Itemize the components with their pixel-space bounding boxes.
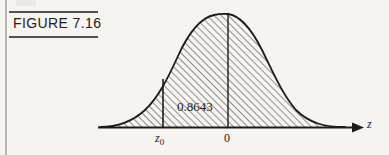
shaded-area-hatch — [95, 8, 353, 130]
probability-value-label: 0.8643 — [177, 99, 213, 115]
tick-label-z0: z0 — [155, 131, 164, 147]
tick-label-z0-subscript: 0 — [160, 137, 165, 147]
z-axis-arrowhead — [352, 123, 364, 133]
normal-curve-plot — [0, 0, 389, 155]
tick-label-zero: 0 — [224, 131, 230, 146]
z-axis-label: z — [367, 117, 372, 132]
normal-curve-svg — [0, 0, 389, 155]
figure-page: FIGURE 7.16 — [0, 0, 389, 155]
